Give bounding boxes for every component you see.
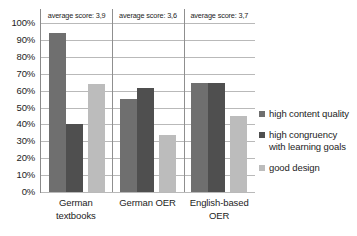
legend-entry[interactable]: good design (259, 162, 355, 174)
bar[interactable] (88, 84, 105, 192)
bar[interactable] (137, 88, 154, 192)
y-axis-tick-label: 40% (17, 120, 35, 130)
bars-layer (41, 23, 255, 192)
bar-group (184, 23, 255, 192)
legend-entry[interactable]: high congruency with learning goals (259, 129, 355, 153)
x-axis-category-label: German OER (112, 196, 184, 222)
y-axis-tick-label: 100% (12, 18, 36, 28)
y-axis-tick-label: 30% (17, 137, 35, 147)
legend-swatch-icon (259, 165, 265, 171)
bar-group (41, 23, 112, 192)
average-score-annotation: average score: 3,7 (184, 9, 255, 23)
y-axis-tick-label: 50% (17, 103, 35, 113)
x-axis-category-label: German textbooks (40, 196, 112, 222)
y-axis-tick-label: 70% (17, 69, 35, 79)
legend-swatch-icon (259, 132, 265, 138)
bar[interactable] (159, 135, 176, 192)
gridline (41, 192, 255, 193)
y-axis-tick-label: 60% (17, 86, 35, 96)
legend-label: high content quality (269, 108, 349, 120)
bar[interactable] (191, 83, 208, 192)
bar-chart: 100%90%80%70%60%50%40%30%20%10%0% averag… (0, 0, 357, 236)
y-axis-tick-label: 80% (17, 52, 35, 62)
y-axis: 100%90%80%70%60%50%40%30%20%10%0% (0, 14, 38, 194)
y-axis-tick-label: 90% (17, 35, 35, 45)
bar[interactable] (230, 116, 247, 192)
legend-entry[interactable]: high content quality (259, 108, 355, 120)
bar[interactable] (49, 33, 66, 192)
legend-label: good design (269, 162, 320, 174)
legend-swatch-icon (259, 111, 265, 117)
y-axis-tick-label: 0% (22, 187, 35, 197)
bar[interactable] (208, 83, 225, 192)
average-score-annotation: average score: 3,6 (112, 9, 183, 23)
bar[interactable] (120, 99, 137, 192)
y-axis-tick-label: 20% (17, 153, 35, 163)
legend-label: high congruency with learning goals (269, 129, 355, 153)
x-axis-category-label: English-based OER (183, 196, 255, 222)
average-score-band: average score: 3,9average score: 3,6aver… (41, 9, 255, 23)
average-score-annotation: average score: 3,9 (41, 9, 112, 23)
bar[interactable] (66, 124, 83, 192)
x-axis: German textbooksGerman OEREnglish-based … (40, 196, 255, 222)
y-axis-tick-label: 10% (17, 170, 35, 180)
plot-area: average score: 3,9average score: 3,6aver… (40, 9, 255, 193)
bar-group (112, 23, 183, 192)
chart-legend: high content qualityhigh congruency with… (259, 108, 355, 183)
